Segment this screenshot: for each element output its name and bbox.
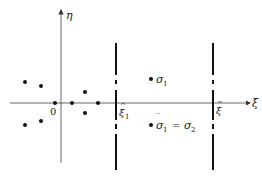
singularity-points (23, 80, 100, 127)
cut-line-2-label: ξ ^ (216, 100, 223, 116)
point (83, 90, 87, 94)
svg-text:‾: ‾ (156, 112, 160, 121)
point (39, 84, 43, 88)
svg-text:1: 1 (125, 113, 129, 121)
sigma-bar-point (149, 123, 153, 127)
cut-line-1-label: ξ ^ 1 (119, 102, 129, 121)
sigma-bar-equals-sigma-2-label: σ ‾ 1 = σ 2 (156, 112, 195, 134)
xi-axis-label: ξ (252, 97, 259, 110)
diagram-canvas: η ξ 0 ξ ^ 1 ξ ^ σ (0, 0, 262, 178)
svg-text:2: 2 (191, 126, 195, 134)
svg-text:=: = (172, 120, 180, 131)
sigma-1-point (149, 77, 153, 81)
point (23, 123, 27, 127)
origin-label: 0 (50, 106, 56, 117)
point (23, 80, 27, 84)
point (70, 101, 74, 105)
svg-text:^: ^ (217, 100, 223, 108)
eta-axis-label: η (66, 9, 73, 22)
point (96, 101, 100, 105)
sigma-1-label: σ 1 (156, 73, 167, 88)
point (83, 111, 87, 115)
svg-text:1: 1 (163, 126, 167, 134)
point (39, 119, 43, 123)
svg-text:1: 1 (163, 80, 167, 88)
svg-text:^: ^ (120, 102, 126, 110)
point (53, 101, 57, 105)
